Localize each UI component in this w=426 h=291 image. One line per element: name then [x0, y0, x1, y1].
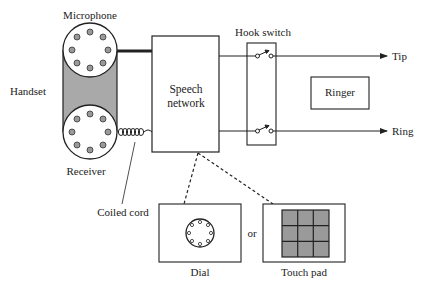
keypad-icon [282, 210, 329, 257]
handset-label: Handset [10, 86, 46, 97]
coiled-cord-leader [122, 142, 135, 204]
or-label: or [247, 228, 256, 239]
receiver-icon [63, 105, 117, 159]
tip-label: Tip [392, 51, 407, 62]
diagram-canvas [0, 0, 426, 291]
hook-switch-contact-lower [256, 125, 274, 133]
hook-switch-label: Hook switch [235, 27, 291, 38]
hook-switch-contact-upper [256, 50, 274, 58]
speech-network-label-line2: network [167, 96, 205, 110]
dashed-link-dial [184, 153, 198, 204]
dial-label: Dial [191, 267, 210, 278]
speech-network-label: Speech network [167, 82, 205, 111]
touch-pad-label: Touch pad [281, 267, 327, 278]
receiver-label: Receiver [66, 166, 105, 177]
coiled-cord-label: Coiled cord [97, 207, 149, 218]
microphone-icon [63, 23, 117, 77]
microphone-label: Microphone [63, 10, 117, 21]
telephone-diagram: Microphone Handset Receiver Coiled cord … [0, 0, 426, 291]
coiled-cord-icon [118, 129, 152, 136]
ringer-label: Ringer [325, 87, 355, 98]
ring-label: Ring [392, 126, 413, 137]
speech-network-label-line1: Speech [167, 82, 205, 96]
dashed-link-touchpad [198, 153, 273, 204]
rotary-dial-icon [186, 219, 214, 247]
